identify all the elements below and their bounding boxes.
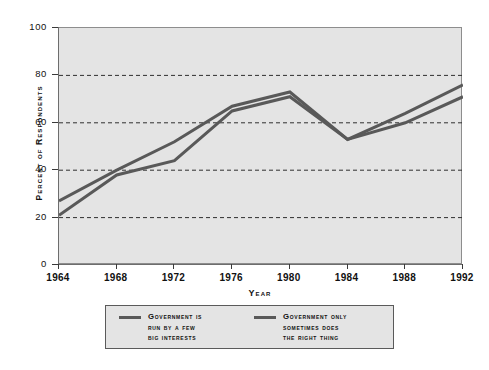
x-tick-mark <box>173 264 174 269</box>
legend-line-2: run by a few <box>148 323 195 332</box>
x-tick-label: 1964 <box>35 272 81 283</box>
y-tick-mark <box>52 217 58 218</box>
x-tick-mark <box>231 264 232 269</box>
legend-item-government-run-by-few: Government is run by a few big interests <box>119 312 202 344</box>
chart-figure: 020406080100 196419681972197619801984198… <box>0 0 489 370</box>
legend-item-label: Government is run by a few big interests <box>148 312 202 344</box>
x-axis-spine <box>58 264 463 265</box>
y-tick-mark <box>52 122 58 123</box>
legend-swatch-icon <box>119 316 141 319</box>
x-tick-mark <box>404 264 405 269</box>
legend-line-3: the right thing <box>283 333 339 342</box>
x-tick-mark <box>289 264 290 269</box>
y-axis-title: Percent of Respondents <box>34 33 44 253</box>
x-tick-mark <box>347 264 348 269</box>
y-axis-spine <box>58 27 59 265</box>
series-lines <box>59 85 463 215</box>
plot-svg <box>59 28 463 265</box>
x-tick-mark <box>462 264 463 269</box>
x-tick-mark <box>116 264 117 269</box>
y-tick-label: 100 <box>29 22 47 32</box>
legend-line-2: sometimes does <box>283 323 339 332</box>
y-tick-label: 0 <box>41 259 47 269</box>
x-tick-label: 1984 <box>324 272 370 283</box>
legend-line-1: Government only <box>283 312 347 321</box>
legend-swatch-icon <box>254 316 276 319</box>
x-tick-label: 1976 <box>208 272 254 283</box>
x-tick-label: 1988 <box>381 272 427 283</box>
x-tick-label: 1980 <box>266 272 312 283</box>
plot-area <box>58 27 462 264</box>
legend-item-government-right-thing: Government only sometimes does the right… <box>254 312 347 344</box>
y-tick-mark <box>52 27 58 28</box>
gridlines <box>59 75 463 217</box>
legend-item-label: Government only sometimes does the right… <box>283 312 347 344</box>
legend: Government is run by a few big interests… <box>105 305 394 349</box>
legend-line-3: big interests <box>148 333 196 342</box>
x-tick-mark <box>58 264 59 269</box>
x-tick-label: 1972 <box>150 272 196 283</box>
y-tick-mark <box>52 169 58 170</box>
x-tick-label: 1992 <box>439 272 485 283</box>
x-tick-label: 1968 <box>93 272 139 283</box>
y-tick-mark <box>52 74 58 75</box>
x-axis-title: Year <box>58 288 462 298</box>
legend-line-1: Government is <box>148 312 202 321</box>
